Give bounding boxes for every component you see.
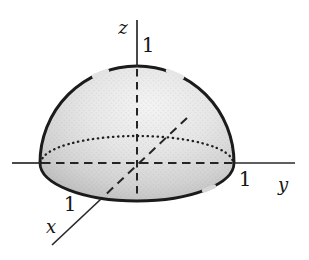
- hemisphere-figure: z 1 y 1 x 1: [0, 0, 309, 260]
- y-tick-label: 1: [239, 167, 252, 191]
- x-axis-label: x: [46, 216, 56, 237]
- figure-canvas: z 1 y 1 x 1: [0, 0, 309, 260]
- z-axis-label: z: [117, 17, 128, 38]
- y-axis-label: y: [277, 174, 289, 195]
- x-axis-line: [52, 199, 101, 245]
- x-tick-label: 1: [64, 192, 77, 216]
- z-tick-label: 1: [142, 33, 155, 57]
